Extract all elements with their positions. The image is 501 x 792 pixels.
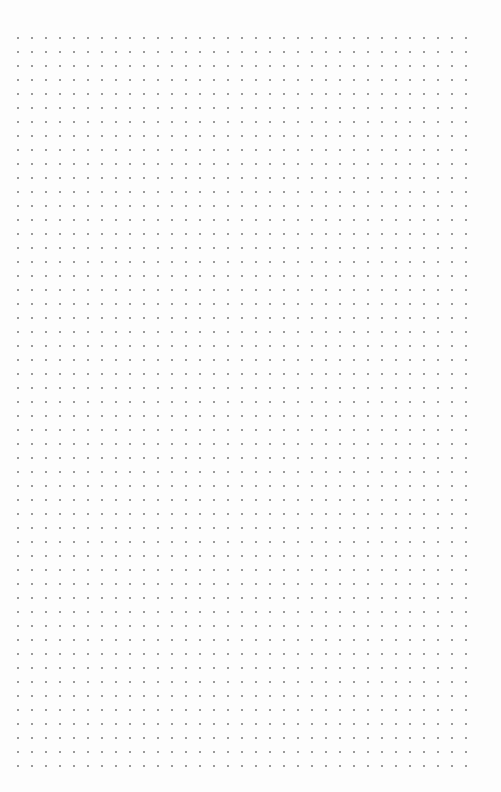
dot-grid-page <box>0 0 501 792</box>
dot-grid-pattern <box>11 31 473 773</box>
